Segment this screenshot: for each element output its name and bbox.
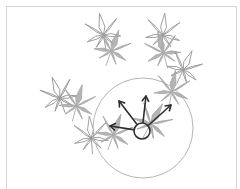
leaf-diagram (0, 0, 240, 189)
center-marker-circle (134, 123, 150, 139)
leaf-outline-icon (83, 10, 123, 53)
leaf-outline-icon (162, 44, 207, 90)
leaf-filled-icon (56, 80, 99, 126)
arrow-left-icon (110, 124, 133, 130)
leaf-filled-icon (152, 67, 192, 110)
leaf-outline-icon (36, 71, 81, 118)
arrow-up-left-icon (119, 101, 137, 124)
